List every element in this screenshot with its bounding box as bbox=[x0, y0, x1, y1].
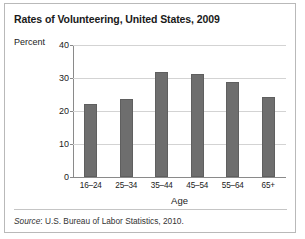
source-note: Source: U.S. Bureau of Labor Statistics,… bbox=[14, 216, 184, 226]
x-tick-label: 65+ bbox=[251, 181, 287, 190]
bar bbox=[84, 104, 97, 177]
figure-container: Rates of Volunteering, United States, 20… bbox=[4, 3, 296, 233]
x-tick-label: 35–44 bbox=[144, 181, 180, 190]
bar-group: 45–54 bbox=[180, 44, 216, 177]
bar-series: 16–2425–3435–4445–5455–6465+ bbox=[73, 45, 286, 178]
bar bbox=[120, 99, 133, 177]
x-axis-title: Age bbox=[73, 195, 286, 206]
y-tick-label: 40 bbox=[59, 41, 69, 50]
y-tick-label: 20 bbox=[59, 107, 69, 116]
y-axis-title: Percent bbox=[14, 37, 45, 47]
x-tick-label: 55–64 bbox=[215, 181, 251, 190]
bar-group: 65+ bbox=[251, 44, 287, 177]
page-title: Rates of Volunteering, United States, 20… bbox=[14, 13, 220, 25]
bar bbox=[155, 72, 168, 177]
bar bbox=[262, 97, 275, 177]
x-tick-label: 16–24 bbox=[73, 181, 109, 190]
x-tick-label: 45–54 bbox=[180, 181, 216, 190]
bar-group: 55–64 bbox=[215, 44, 251, 177]
bar bbox=[191, 74, 204, 177]
x-tick-label: 25–34 bbox=[109, 181, 145, 190]
y-tick-label: 0 bbox=[64, 173, 69, 182]
bar-group: 25–34 bbox=[109, 44, 145, 177]
bar bbox=[226, 82, 239, 177]
footer-divider bbox=[14, 209, 287, 210]
y-tick-label: 30 bbox=[59, 74, 69, 83]
source-text: : U.S. Bureau of Labor Statistics, 2010. bbox=[40, 216, 183, 226]
plot-area: 010203040 16–2425–3435–4445–5455–6465+ bbox=[73, 45, 286, 178]
y-tick-label: 10 bbox=[59, 140, 69, 149]
bar-group: 16–24 bbox=[73, 44, 109, 177]
source-label: Source bbox=[14, 216, 40, 226]
bar-group: 35–44 bbox=[144, 44, 180, 177]
